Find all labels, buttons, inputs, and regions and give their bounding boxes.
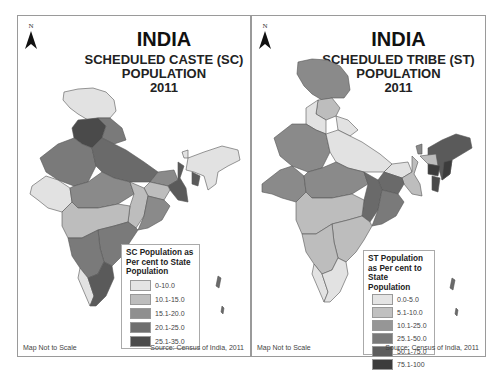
legend-label: 15.1-20.0 bbox=[155, 310, 185, 317]
legend-label: 20.1-25.0 bbox=[155, 324, 185, 331]
map-legend: ST Population as Per cent to State Popul… bbox=[363, 250, 435, 355]
legend-label: 10.1-15.0 bbox=[155, 296, 185, 303]
sc-map-panel: N INDIA SCHEDULED CASTE (SC) POPULATION … bbox=[17, 15, 251, 357]
legend-item: 10.1-15.0 bbox=[126, 294, 194, 305]
legend-swatch bbox=[372, 359, 393, 370]
legend-label: 5.1-10.0 bbox=[397, 309, 423, 316]
source-note: Source: Census of India, 2011 bbox=[385, 344, 479, 351]
legend-label: 10.1-25.0 bbox=[397, 322, 427, 329]
legend-item: 10.1-25.0 bbox=[368, 320, 429, 331]
legend-item: 15.1-20.0 bbox=[126, 308, 194, 319]
legend-label: 75.1-100 bbox=[397, 361, 425, 368]
legend-swatch bbox=[130, 294, 151, 305]
legend-swatch bbox=[372, 320, 393, 331]
st-map-panel: N INDIA SCHEDULED TRIBE (ST) POPULATION … bbox=[251, 15, 486, 357]
legend-item: 5.1-10.0 bbox=[368, 307, 429, 318]
legend-label: 25.1-50.0 bbox=[397, 335, 427, 342]
legend-title: SC Population as Per cent to State Popul… bbox=[126, 248, 194, 277]
legend-item: 0-10.0 bbox=[126, 280, 194, 291]
legend-label: 0.0-5.0 bbox=[397, 296, 419, 303]
map-legend: SC Population as Per cent to State Popul… bbox=[121, 244, 200, 349]
legend-swatch bbox=[130, 308, 151, 319]
legend-swatch bbox=[372, 294, 393, 305]
legend-swatch bbox=[130, 322, 151, 333]
scale-note: Map Not to Scale bbox=[257, 344, 311, 351]
legend-item: 0.0-5.0 bbox=[368, 294, 429, 305]
legend-swatch bbox=[372, 333, 393, 344]
legend-item: 75.1-100 bbox=[368, 359, 429, 370]
legend-label: 0-10.0 bbox=[155, 282, 175, 289]
legend-swatch bbox=[130, 336, 151, 347]
legend-swatch bbox=[372, 307, 393, 318]
legend-item: 20.1-25.0 bbox=[126, 322, 194, 333]
scale-note: Map Not to Scale bbox=[23, 344, 77, 351]
legend-item: 25.1-50.0 bbox=[368, 333, 429, 344]
source-note: Source: Census of India, 2011 bbox=[150, 344, 244, 351]
legend-swatch bbox=[130, 280, 151, 291]
legend-title: ST Population as Per cent to State Popul… bbox=[368, 254, 429, 292]
